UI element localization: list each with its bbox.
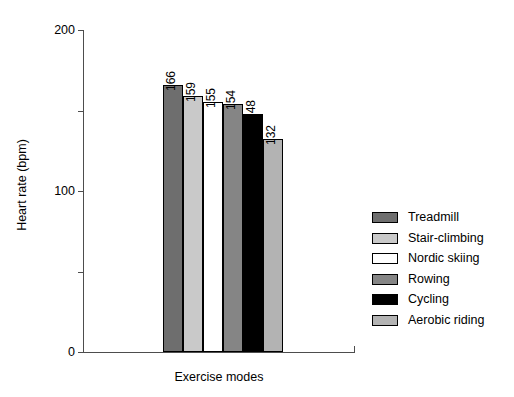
bar[interactable] xyxy=(183,96,203,352)
legend-item[interactable]: Nordic skiing xyxy=(372,249,512,268)
x-axis-line xyxy=(83,352,355,353)
legend-item-label: Stair-climbing xyxy=(408,232,484,245)
legend-swatch-icon xyxy=(372,253,398,264)
legend-item-label: Aerobic riding xyxy=(408,314,484,327)
y-axis-title: Heart rate (bpm) xyxy=(15,115,29,255)
legend-swatch-icon xyxy=(372,233,398,244)
legend-swatch-icon xyxy=(372,274,398,285)
bar[interactable] xyxy=(223,104,243,352)
y-axis-tick-minor xyxy=(78,272,84,273)
legend-item-label: Nordic skiing xyxy=(408,252,480,265)
x-axis-tick-end xyxy=(354,346,355,352)
bar-chart: 0100200 Heart rate (bpm) Exercise modes … xyxy=(0,0,514,397)
bar[interactable] xyxy=(163,85,183,352)
y-axis-tick-major xyxy=(78,191,84,192)
legend-item[interactable]: Aerobic riding xyxy=(372,311,512,330)
bar-value-label: 155 xyxy=(205,88,217,108)
legend-item[interactable]: Treadmill xyxy=(372,208,512,227)
y-axis-tick-major xyxy=(78,30,84,31)
legend-item[interactable]: Stair-climbing xyxy=(372,229,512,248)
bar-value-label: 154 xyxy=(225,90,237,110)
bar[interactable] xyxy=(203,102,223,352)
y-axis-tick-label: 200 xyxy=(33,24,75,37)
x-axis-tick-start xyxy=(83,346,84,352)
legend-swatch-icon xyxy=(372,315,398,326)
y-axis-tick-label: 0 xyxy=(33,346,75,359)
y-axis-tick-label-text: 100 xyxy=(33,185,75,198)
chart-legend: TreadmillStair-climbingNordic skiingRowi… xyxy=(372,208,512,331)
y-axis-tick-label-text: 0 xyxy=(33,346,75,359)
bars-group: 166159155154148132 xyxy=(163,30,285,352)
legend-item-label: Treadmill xyxy=(408,211,459,224)
y-axis-tick-major xyxy=(78,352,84,353)
legend-swatch-icon xyxy=(372,212,398,223)
y-axis-tick-label: 100 xyxy=(33,185,75,198)
legend-item-label: Cycling xyxy=(408,293,449,306)
legend-item[interactable]: Rowing xyxy=(372,270,512,289)
bar-value-label: 148 xyxy=(245,100,257,120)
bar-value-label: 159 xyxy=(185,82,197,102)
legend-item[interactable]: Cycling xyxy=(372,290,512,309)
x-axis-title: Exercise modes xyxy=(83,370,355,384)
legend-swatch-icon xyxy=(372,294,398,305)
legend-item-label: Rowing xyxy=(408,273,450,286)
y-axis-tick-label-text: 200 xyxy=(33,24,75,37)
bar-value-label: 132 xyxy=(265,125,277,145)
bar[interactable] xyxy=(243,114,263,352)
bar-value-label: 166 xyxy=(165,71,177,91)
y-axis-tick-minor xyxy=(78,111,84,112)
bar[interactable] xyxy=(263,139,283,352)
